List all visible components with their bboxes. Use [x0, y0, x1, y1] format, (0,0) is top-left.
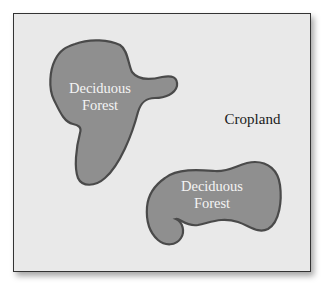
deciduous-forest-patch-1 — [50, 40, 177, 184]
deciduous-forest-patch-2 — [147, 162, 281, 244]
land-cover-map — [0, 0, 325, 288]
